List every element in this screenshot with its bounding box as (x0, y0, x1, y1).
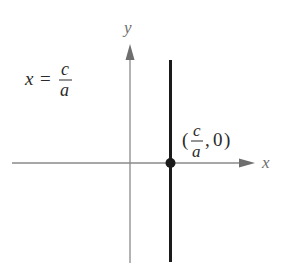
y-axis-label: y (122, 18, 132, 37)
point-x-denominator: a (192, 142, 201, 161)
y-axis (126, 44, 135, 263)
point-label: ( c a , 0 ) (182, 121, 230, 161)
point-separator: , (205, 129, 210, 150)
point-marker (166, 158, 176, 168)
x-axis (12, 159, 255, 168)
point-close-paren: ) (224, 129, 230, 151)
point-y-value: 0 (213, 129, 223, 150)
x-axis-label: x (261, 153, 270, 172)
coordinate-plane: x y x = c a ( c a , 0 ) (0, 0, 292, 270)
y-axis-arrow-icon (126, 44, 135, 60)
point-open-paren: ( (182, 129, 188, 151)
x-axis-arrow-icon (239, 159, 255, 168)
equation-label: x = c a (24, 59, 72, 100)
equation-equals: = (40, 68, 51, 89)
point-x-numerator: c (193, 121, 201, 140)
equation-lhs: x (24, 68, 34, 89)
equation-numerator: c (61, 59, 69, 79)
equation-denominator: a (60, 80, 69, 100)
